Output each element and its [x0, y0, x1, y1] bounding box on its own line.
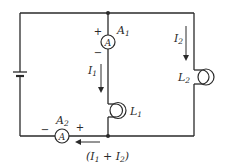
a2-minus-sign: − — [41, 124, 49, 135]
battery-icon — [13, 72, 27, 78]
current-total: (I1 + I2) — [78, 142, 129, 164]
l1-label: L1 — [129, 105, 142, 119]
ammeter-symbol: A — [104, 38, 112, 48]
i1-label: I1 — [87, 64, 97, 78]
circuit-diagram: A + − A1 I1 L1 I2 L2 A − + A2 (I — [0, 0, 227, 168]
current-i1: I1 — [87, 64, 101, 90]
l2-label: L2 — [177, 71, 190, 85]
a1-plus-sign: + — [94, 26, 102, 37]
wires — [20, 11, 194, 138]
a2-label: A2 — [55, 114, 69, 128]
lamp-l1: L1 — [108, 103, 142, 120]
total-current-label: (I1 + I2) — [86, 150, 129, 164]
junction-bottom — [106, 134, 110, 138]
junction-top — [106, 11, 110, 15]
ammeter-a2: A − + A2 — [41, 114, 84, 143]
i2-label: I2 — [173, 32, 183, 46]
ammeter-a1: A + − A1 — [94, 24, 130, 58]
a1-label: A1 — [116, 24, 130, 38]
ammeter-symbol: A — [58, 132, 66, 142]
a2-plus-sign: + — [76, 122, 84, 133]
lamp-l2: L2 — [177, 69, 214, 85]
current-i2: I2 — [173, 26, 186, 58]
a1-minus-sign: − — [94, 47, 102, 58]
